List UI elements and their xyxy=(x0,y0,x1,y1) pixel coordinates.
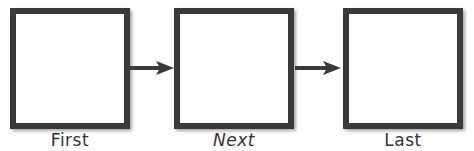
box-last xyxy=(343,8,463,129)
label-first: First xyxy=(10,130,130,150)
arrow-right-icon xyxy=(295,60,341,76)
label-last: Last xyxy=(343,130,463,150)
arrow-right-icon xyxy=(130,60,174,76)
box-next xyxy=(174,8,294,129)
box-first xyxy=(10,8,130,129)
label-next: Next xyxy=(174,130,294,150)
